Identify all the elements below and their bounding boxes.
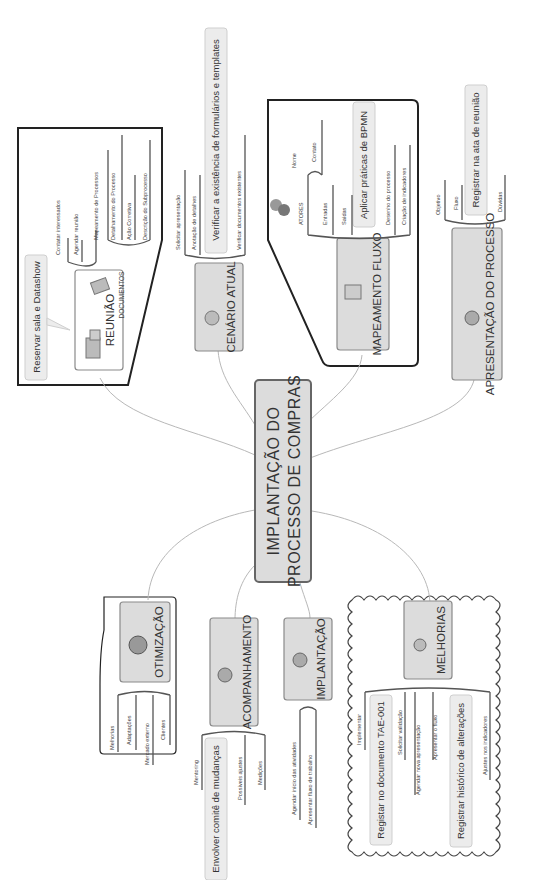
topic-otimizacao[interactable]: OTIMIZAÇÃO: [120, 602, 170, 682]
svg-text:Ação Corretiva: Ação Corretiva: [126, 202, 132, 240]
svg-text:ACOMPANHAMENTO: ACOMPANHAMENTO: [241, 615, 253, 730]
svg-text:Mercado externo: Mercado externo: [144, 723, 150, 765]
svg-text:Clientes: Clientes: [160, 720, 166, 740]
svg-text:Criação de indicadores: Criação de indicadores: [401, 168, 407, 225]
svg-text:ATORES: ATORES: [298, 202, 304, 225]
presenter-icon: [465, 311, 479, 325]
callout-melhorias-1[interactable]: Registar no documento TAE-001: [370, 695, 392, 845]
svg-text:MAPEAMENTO FLUXO: MAPEAMENTO FLUXO: [371, 232, 383, 355]
svg-text:Implementar: Implementar: [356, 714, 362, 745]
topic-acompanhamento[interactable]: ACOMPANHAMENTO: [210, 615, 258, 730]
svg-text:Adaptações: Adaptações: [126, 715, 132, 745]
topic-label: REUNIÃO: [104, 294, 116, 346]
central-topic[interactable]: IMPLANTAÇÃO DO PROCESSO DE COMPRAS: [255, 375, 311, 587]
svg-text:Entradas: Entradas: [322, 202, 328, 225]
svg-text:Verificar documentos existente: Verificar documentos existentes: [236, 171, 242, 250]
world-icon: [129, 636, 147, 654]
callout-acompanhamento[interactable]: Envolver comitê de mudanças: [205, 738, 227, 880]
leaf-contatar: Contatar interessados: [55, 200, 61, 255]
callout-mapeamento[interactable]: Aplicar práticas de BPMN: [353, 102, 375, 227]
topic-apresentacao[interactable]: APRESENTAÇÃO DO PROCESSO: [452, 213, 502, 396]
svg-text:Dúvidas: Dúvidas: [497, 192, 503, 212]
central-topic-line1: IMPLANTAÇÃO DO: [263, 407, 282, 556]
mind-map-canvas: IMPLANTAÇÃO DO PROCESSO DE COMPRAS REUNI…: [0, 0, 537, 880]
svg-text:Possíveis ajustes: Possíveis ajustes: [237, 757, 243, 800]
svg-text:Nome: Nome: [291, 153, 297, 168]
magnifier-icon: [218, 668, 232, 682]
callout-cenario[interactable]: Verificar a existência de formulários e …: [205, 28, 227, 253]
topic-cenario-atual[interactable]: CENÁRIO ATUAL: [195, 261, 243, 353]
callout-apresentacao[interactable]: Registrar na ata de reunião: [465, 85, 487, 215]
svg-text:Verificar a existência de form: Verificar a existência de formulários e …: [210, 39, 221, 241]
svg-text:Detalhamento do Processo: Detalhamento do Processo: [110, 173, 116, 240]
svg-text:Melhorias: Melhorias: [109, 726, 115, 750]
svg-text:Registar no documento TAE-001: Registar no documento TAE-001: [375, 701, 386, 838]
svg-text:Solicitar validação: Solicitar validação: [397, 710, 403, 755]
svg-text:Contato: Contato: [311, 142, 317, 162]
svg-text:Registrar na ata de reunião: Registrar na ata de reunião: [470, 92, 481, 207]
svg-text:Objetivo: Objetivo: [435, 194, 441, 215]
lab-flask-icon: [414, 639, 426, 651]
svg-text:Medições: Medições: [257, 761, 263, 785]
svg-text:Anotação de detalhes: Anotação de detalhes: [191, 196, 197, 250]
svg-text:CENÁRIO ATUAL: CENÁRIO ATUAL: [225, 261, 237, 353]
svg-text:Descrição do Subprocesso: Descrição do Subprocesso: [142, 173, 148, 240]
globe-icon: [205, 311, 219, 325]
gears-icon: [293, 653, 307, 667]
svg-text:Agendar início das atividades: Agendar início das atividades: [291, 742, 297, 815]
svg-text:Registrar histórico de alteraç: Registrar histórico de alterações: [455, 703, 466, 839]
flowchart-icon: [345, 285, 361, 299]
svg-text:Agendar nova apresentação: Agendar nova apresentação: [415, 725, 421, 795]
svg-text:Fluxo: Fluxo: [453, 196, 459, 210]
svg-text:Mapeamento de Processos: Mapeamento de Processos: [93, 172, 99, 240]
leaf-agendar-reuniao: Agendar reunião: [73, 214, 79, 255]
svg-text:Saídas: Saídas: [341, 207, 347, 225]
callout-melhorias-2[interactable]: Registrar histórico de alterações: [450, 695, 472, 847]
svg-text:Apresentar o fluxo: Apresentar o fluxo: [432, 715, 438, 760]
svg-text:OTIMIZAÇÃO: OTIMIZAÇÃO: [153, 606, 165, 678]
topic-melhorias[interactable]: MELHORIAS: [404, 601, 452, 679]
svg-text:Apresentar fluxo de trabalho: Apresentar fluxo de trabalho: [307, 755, 313, 825]
svg-text:Aplicar práticas de BPMN: Aplicar práticas de BPMN: [358, 111, 369, 219]
svg-text:Ajustes nos indicadores: Ajustes nos indicadores: [482, 716, 488, 775]
svg-text:Desenho do processo: Desenho do processo: [385, 171, 391, 225]
svg-text:MELHORIAS: MELHORIAS: [435, 606, 447, 674]
svg-text:APRESENTAÇÃO DO PROCESSO: APRESENTAÇÃO DO PROCESSO: [484, 213, 496, 396]
svg-text:DOCUMENTOS: DOCUMENTOS: [118, 271, 125, 318]
svg-text:Reservar sala e Datashow: Reservar sala e Datashow: [31, 261, 42, 373]
svg-text:Solicitar apresentação: Solicitar apresentação: [175, 195, 181, 250]
svg-text:IMPLANTAÇÃO: IMPLANTAÇÃO: [315, 618, 327, 700]
central-topic-line2: PROCESSO DE COMPRAS: [286, 375, 303, 587]
svg-text:Envolver comitê de mudanças: Envolver comitê de mudanças: [210, 745, 221, 873]
svg-text:Mentoring: Mentoring: [193, 760, 199, 785]
topic-implantacao[interactable]: IMPLANTAÇÃO: [284, 618, 332, 700]
topic-mapeamento-fluxo[interactable]: MAPEAMENTO FLUXO: [337, 232, 389, 355]
